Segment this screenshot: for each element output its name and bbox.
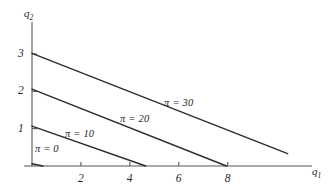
isoprofit-line-label: π = 10 xyxy=(65,129,94,140)
isoprofit-line xyxy=(32,89,226,166)
axes-group xyxy=(24,22,312,166)
isoprofit-line-chart: q2 q1 2468123 π = 0π = 10π = 20π = 30 xyxy=(0,0,330,193)
x-tick-label: 6 xyxy=(176,173,182,185)
x-tick-label: 8 xyxy=(225,173,231,185)
y-tick-label: 2 xyxy=(18,85,24,97)
isoprofit-line-label: π = 30 xyxy=(164,98,193,109)
x-tick-label: 4 xyxy=(127,173,133,185)
x-axis-title: q1 xyxy=(312,166,321,180)
isoprofit-line-label: π = 0 xyxy=(35,144,59,155)
y-axis-title-subscript: 2 xyxy=(30,13,34,22)
y-tick-label: 1 xyxy=(18,123,24,135)
y-tick-label: 3 xyxy=(18,48,24,60)
x-axis-title-subscript: 1 xyxy=(318,171,322,180)
x-tick-label: 2 xyxy=(78,173,84,185)
x-axis-ticks xyxy=(81,162,228,166)
isoprofit-lines xyxy=(32,53,288,166)
y-axis-title: q2 xyxy=(24,8,33,22)
isoprofit-line-label: π = 20 xyxy=(120,114,149,125)
